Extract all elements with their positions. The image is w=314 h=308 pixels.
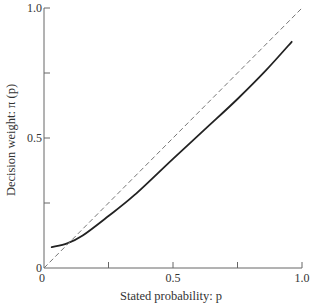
x-tick-label: 1.0	[295, 271, 310, 285]
series-layer	[44, 8, 302, 268]
x-tick-label: 0.5	[166, 271, 181, 285]
x-ticks: 00.51.0	[39, 262, 310, 285]
decision-weight-chart: 00.51.0 00.51.0 Stated probability: p De…	[0, 0, 314, 308]
y-tick-label: 1.0	[27, 1, 42, 15]
y-tick-label: 0.5	[27, 131, 42, 145]
identity-line	[44, 8, 302, 268]
x-axis-label: Stated probability: p	[120, 289, 222, 303]
decision-weight-curve	[52, 42, 292, 247]
y-ticks: 00.51.0	[27, 1, 50, 275]
y-tick-label: 0	[36, 261, 42, 275]
axes	[44, 8, 302, 268]
y-axis-label: Decision weight: π (p)	[4, 84, 18, 196]
